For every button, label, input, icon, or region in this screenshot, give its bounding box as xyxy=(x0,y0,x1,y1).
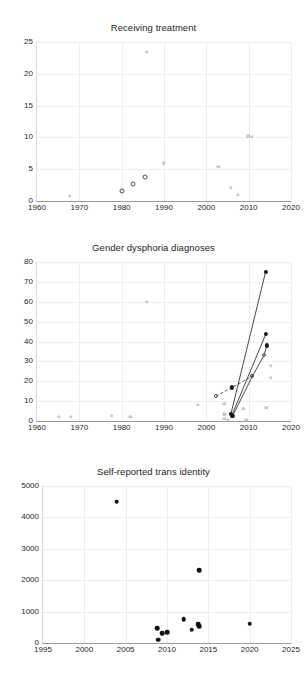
y-axis-tick-label: 5 xyxy=(29,165,37,173)
x-axis-tick-label: 2010 xyxy=(240,421,258,432)
y-axis-tick-label: 60 xyxy=(24,298,37,306)
panel-2-plot-area: 1960197019801990200020102020010203040506… xyxy=(36,262,291,422)
data-point-marker xyxy=(119,189,124,194)
x-axis-tick-label: 2020 xyxy=(282,201,300,212)
data-point-marker xyxy=(110,414,113,417)
y-axis-tick-label: 0 xyxy=(35,639,43,647)
data-point-marker xyxy=(145,300,148,303)
data-point-marker xyxy=(222,402,225,405)
x-axis-tick-label: 2020 xyxy=(241,643,259,654)
x-axis-tick-label: 1970 xyxy=(70,421,88,432)
x-axis-tick-label: 2000 xyxy=(197,421,215,432)
y-gridline xyxy=(37,106,291,107)
data-point-marker xyxy=(222,413,225,416)
y-gridline xyxy=(37,322,291,323)
data-point-marker xyxy=(197,624,202,629)
data-point-marker xyxy=(128,415,131,418)
data-point-marker xyxy=(197,568,202,573)
x-gridline xyxy=(291,262,292,421)
x-axis-tick-label: 2000 xyxy=(197,201,215,212)
x-axis-tick-label: 1970 xyxy=(70,201,88,212)
data-point-marker xyxy=(162,162,165,165)
data-point-marker xyxy=(181,617,186,622)
data-point-marker xyxy=(264,270,268,274)
data-point-marker xyxy=(160,631,165,636)
data-point-marker xyxy=(196,403,199,406)
data-point-marker xyxy=(155,626,160,631)
x-axis-tick-label: 1990 xyxy=(155,421,173,432)
data-point-marker xyxy=(247,621,252,626)
data-point-marker xyxy=(269,376,272,379)
y-axis-tick-label: 4000 xyxy=(21,513,43,521)
x-gridline xyxy=(291,42,292,201)
y-axis-tick-label: 2000 xyxy=(21,576,43,584)
x-axis-tick-label: 2010 xyxy=(240,201,258,212)
data-point-marker xyxy=(230,414,234,418)
y-axis-tick-label: 0 xyxy=(29,417,37,425)
y-axis-tick-label: 10 xyxy=(24,133,37,141)
x-gridline xyxy=(206,42,207,201)
y-axis-tick-label: 70 xyxy=(24,278,37,286)
data-point-marker xyxy=(145,50,148,53)
y-gridline xyxy=(37,302,291,303)
data-point-marker xyxy=(69,415,72,418)
panel-1-title: Receiving treatment xyxy=(0,22,307,33)
data-point-marker xyxy=(230,385,234,389)
y-gridline xyxy=(37,169,291,170)
y-axis-tick-label: 20 xyxy=(24,70,37,78)
x-gridline xyxy=(79,42,80,201)
x-axis-tick-label: 2020 xyxy=(282,421,300,432)
x-gridline xyxy=(208,486,209,643)
x-gridline xyxy=(126,486,127,643)
panel-self-reported-trans-identity: Self-reported trans identity 19952000200… xyxy=(0,452,307,684)
y-gridline xyxy=(37,282,291,283)
x-gridline xyxy=(164,42,165,201)
y-axis-tick-label: 10 xyxy=(24,397,37,405)
data-point-marker xyxy=(226,418,229,421)
data-point-marker xyxy=(143,174,148,179)
data-point-marker xyxy=(68,194,71,197)
data-point-marker xyxy=(269,364,272,367)
data-point-marker xyxy=(190,628,195,633)
data-point-marker xyxy=(156,637,161,642)
data-point-marker xyxy=(265,406,268,409)
y-axis-tick-label: 5000 xyxy=(21,482,43,490)
x-axis-tick-label: 2000 xyxy=(75,643,93,654)
y-gridline xyxy=(43,517,291,518)
x-axis-tick-label: 2015 xyxy=(199,643,217,654)
y-axis-tick-label: 30 xyxy=(24,357,37,365)
y-gridline xyxy=(43,549,291,550)
x-axis-tick-label: 2005 xyxy=(117,643,135,654)
data-point-marker xyxy=(241,407,244,410)
panel-gender-dysphoria-diagnoses: Gender dysphoria diagnoses 1960197019801… xyxy=(0,230,307,452)
data-point-marker xyxy=(265,343,269,347)
y-gridline xyxy=(43,486,291,487)
y-axis-tick-label: 40 xyxy=(24,338,37,346)
y-gridline xyxy=(37,361,291,362)
y-axis-tick-label: 80 xyxy=(24,258,37,266)
x-gridline xyxy=(122,42,123,201)
x-axis-tick-label: 1980 xyxy=(113,201,131,212)
y-axis-tick-label: 3000 xyxy=(21,545,43,553)
y-gridline xyxy=(37,74,291,75)
x-axis-tick-label: 2010 xyxy=(158,643,176,654)
y-axis-tick-label: 15 xyxy=(24,102,37,110)
data-point-marker xyxy=(229,186,232,189)
x-axis-tick-label: 2025 xyxy=(282,643,300,654)
y-gridline xyxy=(37,42,291,43)
panel-1-plot-area: 19601970198019902000201020200510152025 xyxy=(36,42,291,202)
x-gridline xyxy=(167,486,168,643)
data-point-marker xyxy=(214,394,218,398)
x-axis-tick-label: 1980 xyxy=(113,421,131,432)
data-point-marker xyxy=(236,193,239,196)
y-axis-tick-label: 0 xyxy=(29,197,37,205)
data-point-marker xyxy=(250,374,254,378)
y-axis-tick-label: 1000 xyxy=(21,608,43,616)
panel-receiving-treatment: Receiving treatment 19601970198019902000… xyxy=(0,0,307,230)
y-gridline xyxy=(37,401,291,402)
x-gridline xyxy=(250,486,251,643)
y-axis-tick-label: 20 xyxy=(24,377,37,385)
y-axis-tick-label: 25 xyxy=(24,38,37,46)
data-point-marker xyxy=(262,353,266,357)
data-point-marker xyxy=(165,630,170,635)
